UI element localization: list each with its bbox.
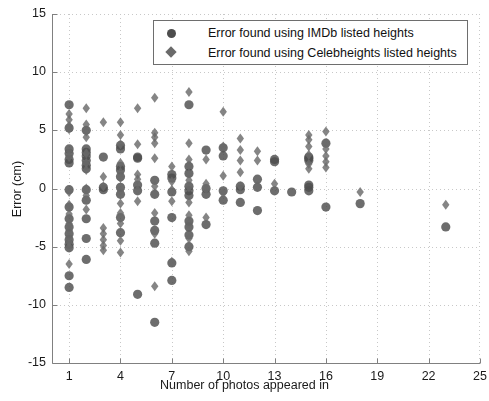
y-tick-label: 0 [6, 181, 46, 195]
x-tick-label: 4 [100, 369, 140, 383]
x-tick-label: 19 [357, 369, 397, 383]
legend-label-celebheights: Error found using Celebheights listed he… [208, 46, 457, 60]
chart-legend: Error found using IMDb listed heights Er… [153, 20, 468, 65]
y-tick-label: 10 [6, 64, 46, 78]
y-tick-label: -15 [6, 355, 46, 369]
y-tick-label: -10 [6, 297, 46, 311]
legend-circle-marker-icon [160, 23, 186, 43]
legend-label-imdb: Error found using IMDb listed heights [208, 26, 414, 40]
y-tick-label: 15 [6, 6, 46, 20]
legend-diamond-marker-icon [160, 43, 186, 63]
y-tick-label: -5 [6, 239, 46, 253]
x-tick-label: 1 [49, 369, 89, 383]
x-tick-label: 13 [255, 369, 295, 383]
x-tick-label: 10 [203, 369, 243, 383]
x-tick-label: 22 [409, 369, 449, 383]
legend-item-celebheights: Error found using Celebheights listed he… [160, 43, 457, 63]
x-tick-label: 25 [460, 369, 489, 383]
x-tick-label: 7 [152, 369, 192, 383]
y-tick-label: 5 [6, 122, 46, 136]
scatter-plot-figure: Number of photos appeared in Error (cm) … [0, 0, 489, 401]
x-tick-label: 16 [306, 369, 346, 383]
legend-item-imdb: Error found using IMDb listed heights [160, 23, 414, 43]
